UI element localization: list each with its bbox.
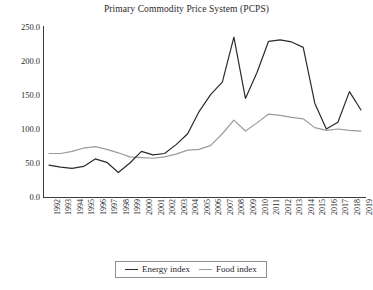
x-axis-tick-labels: 1992199319941995199619971998199920002001…	[44, 199, 366, 245]
x-tick-label: 1994	[76, 199, 85, 215]
x-tick-label: 2017	[341, 199, 350, 215]
x-tick-label: 2014	[307, 199, 316, 215]
x-tick-label: 1996	[99, 199, 108, 215]
x-tick-label: 1993	[64, 199, 73, 215]
chart-title: Primary Commodity Price System (PCPS)	[0, 4, 373, 14]
x-tick-label: 1999	[133, 199, 142, 215]
energy-line-swatch-icon	[125, 269, 138, 270]
y-tick-label: 50.0	[0, 158, 40, 168]
x-tick-label: 2016	[330, 199, 339, 215]
x-tick-label: 2018	[353, 199, 362, 215]
x-tick-label: 1997	[110, 199, 119, 215]
x-tick-label: 1992	[53, 199, 62, 215]
x-axis-line	[43, 197, 366, 198]
chart-figure: Primary Commodity Price System (PCPS) 25…	[0, 0, 373, 290]
y-tick-label: 0.0	[0, 192, 40, 202]
x-tick-label: 2003	[180, 199, 189, 215]
x-tick-label: 2010	[261, 199, 270, 215]
y-axis-tick-labels: 250.0200.0150.0100.050.00.0	[0, 27, 40, 197]
legend-item-food-index: Food index	[199, 264, 257, 274]
x-tick-label: 2001	[157, 199, 166, 215]
legend-label-energy-index: Energy index	[142, 264, 190, 274]
x-tick-label: 2019	[365, 199, 373, 215]
x-tick-label: 2015	[318, 199, 327, 215]
x-tick-label: 2011	[272, 199, 281, 215]
y-tick-label: 200.0	[0, 56, 40, 66]
legend-item-energy-index: Energy index	[125, 264, 190, 274]
legend-label-food-index: Food index	[216, 264, 257, 274]
series-lines	[44, 27, 366, 197]
y-tick-label: 150.0	[0, 90, 40, 100]
x-tick-label: 2008	[237, 199, 246, 215]
energy-index-line	[49, 37, 361, 172]
x-tick-label: 1995	[87, 199, 96, 215]
x-tick-label: 2012	[284, 199, 293, 215]
plot-area	[44, 27, 366, 197]
x-tick-label: 2013	[295, 199, 304, 215]
y-tick-label: 250.0	[0, 22, 40, 32]
x-tick-label: 2007	[226, 199, 235, 215]
x-tick-label: 2006	[214, 199, 223, 215]
food-index-line	[49, 114, 361, 158]
x-tick-label: 2000	[145, 199, 154, 215]
y-tick-label: 100.0	[0, 124, 40, 134]
x-tick-label: 2002	[168, 199, 177, 215]
x-tick-label: 2009	[249, 199, 258, 215]
x-tick-label: 2005	[203, 199, 212, 215]
x-tick-label: 2004	[191, 199, 200, 215]
chart-legend: Energy index Food index	[115, 261, 267, 278]
x-tick-label: 1998	[122, 199, 131, 215]
food-line-swatch-icon	[199, 269, 212, 270]
